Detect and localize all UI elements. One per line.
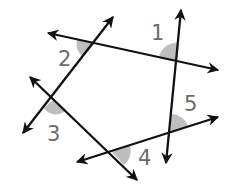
angle-label-1: 1	[151, 21, 164, 45]
angle-label-5: 5	[184, 92, 197, 116]
angle-label-3: 3	[47, 122, 60, 146]
pentagon-exterior-angles-diagram: 1 2 3 4 5	[0, 0, 230, 185]
angle-label-2: 2	[58, 47, 71, 71]
line-upper-left	[23, 17, 113, 133]
angle-label-4: 4	[138, 146, 151, 170]
line-right	[166, 10, 181, 163]
line-top	[48, 33, 218, 70]
